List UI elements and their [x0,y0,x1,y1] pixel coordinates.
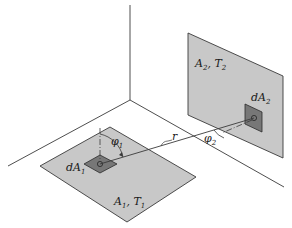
surface-2-plane [188,33,283,158]
distance-r-label: r [172,130,178,143]
angle-2-label: φ2 [204,132,217,147]
surface-1-label: A1, T1 [113,195,145,210]
surface-2: A2, T2 dA2 [188,33,283,158]
view-factor-diagram: A2, T2 dA2 dA1 A1, T1 φ1 φ2 r [0,0,292,228]
angle-2-arc [214,130,224,138]
